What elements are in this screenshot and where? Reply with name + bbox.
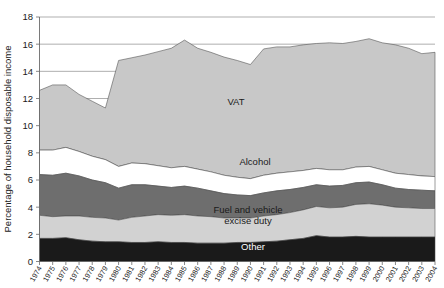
series-label-tobacco: Tobacco bbox=[232, 178, 267, 189]
y-tick-label-6: 6 bbox=[28, 174, 33, 185]
chart-canvas: 024681012141618 197419751976197719781979… bbox=[0, 0, 444, 288]
series-label-other: Other bbox=[241, 241, 265, 252]
series-label-vat: VAT bbox=[227, 96, 244, 107]
y-tick-label-10: 10 bbox=[22, 120, 33, 131]
y-tick-label-8: 8 bbox=[28, 147, 33, 158]
series-label-alcohol: Alcohol bbox=[239, 156, 270, 167]
y-tick-label-16: 16 bbox=[22, 39, 33, 50]
y-tick-label-2: 2 bbox=[28, 229, 33, 240]
y-axis-title: Percentage of household disposable incom… bbox=[2, 46, 13, 233]
y-tick-label-0: 0 bbox=[28, 256, 33, 267]
y-tick-label-18: 18 bbox=[22, 11, 33, 22]
y-tick-label-12: 12 bbox=[22, 93, 33, 104]
stacked-area-chart: 024681012141618 197419751976197719781979… bbox=[0, 0, 444, 288]
y-tick-label-14: 14 bbox=[22, 66, 33, 77]
y-tick-label-4: 4 bbox=[28, 202, 33, 213]
